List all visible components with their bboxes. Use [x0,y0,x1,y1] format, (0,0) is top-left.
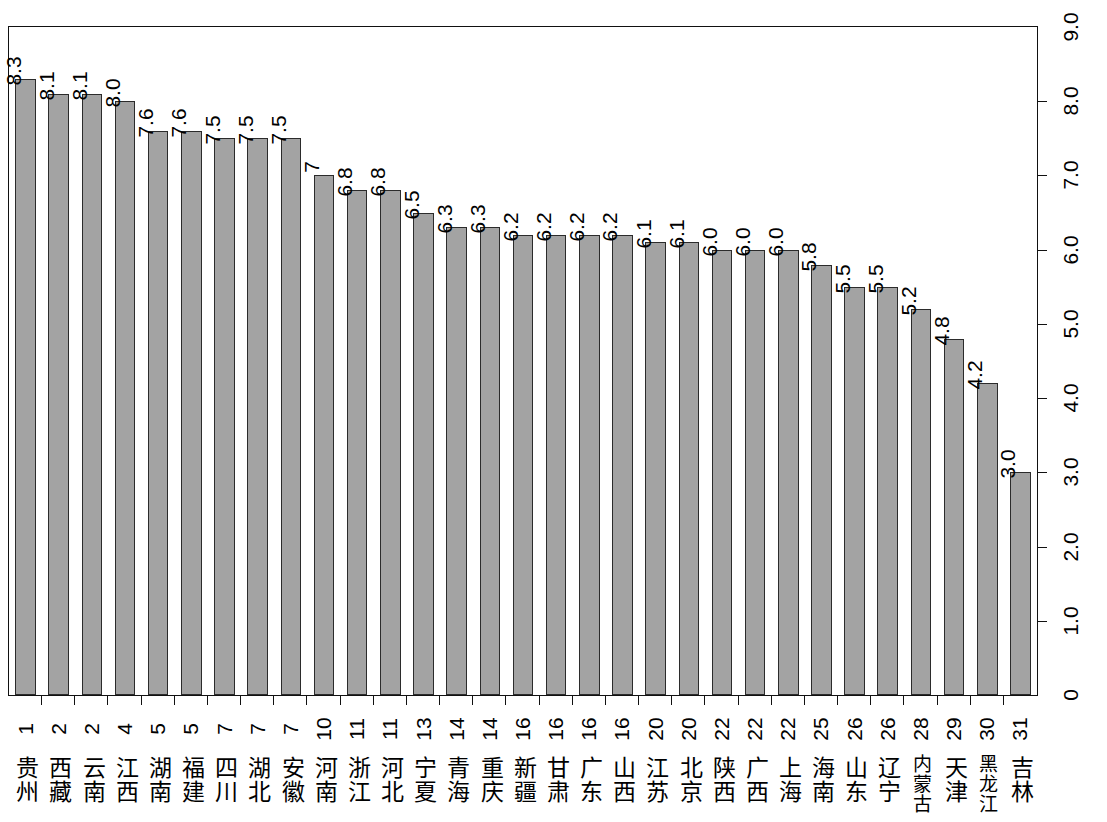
bar-column: 8.0 [115,27,136,695]
bar-value-label: 5.2 [897,286,921,315]
x-axis-tick [704,696,705,705]
category-label-cell: 上海 [772,752,805,822]
bar-column: 6.3 [446,27,467,695]
bar [645,242,666,695]
rank-label-cell: 22 [772,707,805,751]
rank-labels-row: 1224557771011111314141616161620202222222… [9,707,1037,751]
rank-label-cell: 14 [473,707,506,751]
rank-label-cell: 5 [142,707,175,751]
category-label-cell: 湖南 [142,752,175,822]
rank-label: 16 [511,717,535,740]
rank-label: 14 [445,717,469,740]
bar [281,138,302,695]
bar-value-label: 6.2 [532,212,556,241]
x-axis-tick [970,696,971,705]
category-label-cell: 浙江 [341,752,374,822]
bar-column: 4.2 [977,27,998,695]
category-label-cell: 安徽 [274,752,307,822]
category-label: 山东 [843,756,866,804]
bar [1010,472,1031,695]
rank-label-cell: 30 [971,707,1004,751]
rank-label-cell: 26 [871,707,904,751]
category-label-cell: 广东 [573,752,606,822]
category-label: 西藏 [47,756,70,804]
bar [977,383,998,695]
category-label-cell: 河南 [307,752,340,822]
rank-label-cell: 26 [838,707,871,751]
category-label: 辽宁 [876,756,899,804]
bar [712,250,733,695]
bar [877,287,898,695]
category-label-cell: 江苏 [639,752,672,822]
bar-value-label: 7.5 [267,116,291,145]
bar [214,138,235,695]
bar [844,287,865,695]
x-axis-tick [207,696,208,705]
category-label: 新疆 [511,756,534,804]
category-label-cell: 云南 [75,752,108,822]
rank-label-cell: 5 [175,707,208,751]
rank-label-cell: 20 [639,707,672,751]
category-label-cell: 河北 [374,752,407,822]
category-label: 广东 [578,756,601,804]
x-axis-tick [340,696,341,705]
bar [944,339,965,695]
rank-label: 26 [843,717,867,740]
bar-column: 6.0 [712,27,733,695]
bar [446,227,467,695]
bar-column: 5.5 [844,27,865,695]
bar-value-label: 6.0 [731,227,755,256]
rank-label: 4 [113,723,137,735]
bars-layer: 8.38.18.18.07.67.67.57.57.576.86.86.56.3… [9,27,1037,695]
category-label-cell: 海南 [805,752,838,822]
bar-value-label: 6.5 [400,190,424,219]
category-label: 广西 [743,756,766,804]
bar-value-label: 5.5 [831,264,855,293]
x-axis-tick [406,696,407,705]
category-label: 河南 [312,756,335,804]
bar-column: 6.5 [413,27,434,695]
y-axis-tick [1038,547,1047,548]
y-axis-tick-label: 3.0 [1059,449,1083,495]
x-axis-tick [738,696,739,705]
category-label: 湖南 [146,756,169,804]
category-label-cell: 广西 [739,752,772,822]
bar-column: 7.5 [247,27,268,695]
rank-label: 7 [246,723,270,735]
x-axis-tick [671,696,672,705]
rank-label-cell: 20 [672,707,705,751]
category-label-cell: 江西 [108,752,141,822]
category-label: 河北 [379,756,402,804]
rank-label: 11 [345,718,369,740]
bar-value-label: 4.2 [963,361,987,390]
y-axis-tick [1038,324,1047,325]
y-axis-tick [1038,250,1047,251]
bar-value-label: 5.8 [797,242,821,271]
x-axis-tick [306,696,307,705]
category-label-cell: 山东 [838,752,871,822]
bar-column: 7.5 [214,27,235,695]
x-axis-tick [439,696,440,705]
bar-column: 8.1 [82,27,103,695]
bar-column: 6.2 [546,27,567,695]
bar-column: 7.6 [181,27,202,695]
bar-value-label: 8.1 [35,71,59,100]
category-label-cell: 辽宁 [871,752,904,822]
bar-column: 6.8 [347,27,368,695]
rank-label: 11 [378,718,402,740]
category-label: 云南 [80,756,103,804]
y-axis-tick-label: 2.0 [1059,524,1083,570]
y-axis-tick-label: 0 [1059,672,1083,718]
bar-value-label: 7 [300,162,324,174]
bar-value-label: 6.0 [764,227,788,256]
bar-value-label: 6.8 [333,168,357,197]
category-label-cell: 内蒙古 [904,752,937,822]
bar-value-label: 6.8 [366,168,390,197]
category-label: 北京 [677,756,700,804]
rank-label: 20 [677,717,701,740]
bar-value-label: 7.6 [167,108,191,137]
rank-label-cell: 13 [407,707,440,751]
bar [247,138,268,695]
category-label: 陕西 [710,756,733,804]
x-axis-tick [74,696,75,705]
